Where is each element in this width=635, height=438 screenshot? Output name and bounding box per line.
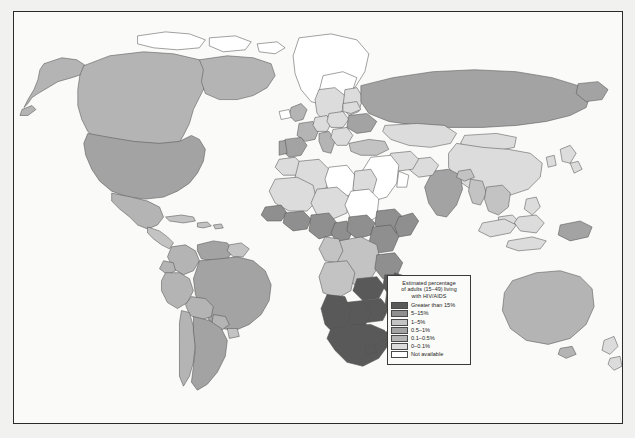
legend-swatch (391, 302, 408, 309)
region-korea (546, 155, 556, 167)
legend-entry: 0.5–1% (391, 327, 467, 334)
screenshot-root: .c{stroke:#555;stroke-width:0.55;stroke-… (0, 0, 635, 438)
legend-entry: 0.1–0.5% (391, 335, 467, 342)
legend-swatch (391, 319, 408, 326)
legend-title-line2: of adults (15–49) living (401, 286, 456, 292)
region-senegal-guinea (261, 205, 287, 221)
world-map-frame: .c{stroke:#555;stroke-width:0.55;stroke-… (13, 11, 623, 424)
legend-label: 5–15% (411, 310, 428, 317)
map-legend: Estimated percentage of adults (15–49) l… (387, 275, 471, 365)
region-uruguay (227, 328, 239, 338)
legend-label: 0.5–1% (411, 327, 430, 334)
legend-title-line3: with HIV/AIDS (412, 293, 447, 299)
world-map-canvas: .c{stroke:#555;stroke-width:0.55;stroke-… (14, 12, 622, 423)
legend-entry: Greater than 15% (391, 302, 467, 309)
legend-swatch (391, 310, 408, 317)
legend-label: 0–0.1% (411, 343, 430, 350)
legend-entry-list: Greater than 15%5–15%1–5%0.5–1%0.1–0.5%0… (391, 302, 467, 358)
legend-swatch (391, 351, 408, 358)
legend-swatch (391, 327, 408, 334)
legend-label: 1–5% (411, 319, 425, 326)
legend-label: Greater than 15% (411, 302, 455, 309)
legend-label: 0.1–0.5% (411, 335, 435, 342)
region-lesotho (365, 344, 377, 354)
legend-entry: Not available (391, 351, 467, 358)
legend-entry: 1–5% (391, 319, 467, 326)
legend-title: Estimated percentage of adults (15–49) l… (391, 280, 467, 299)
legend-entry: 5–15% (391, 310, 467, 317)
legend-swatch (391, 335, 408, 342)
legend-label: Not available (411, 351, 443, 358)
legend-title-line1: Estimated percentage (402, 280, 455, 286)
legend-swatch (391, 343, 408, 350)
legend-entry: 0–0.1% (391, 343, 467, 350)
